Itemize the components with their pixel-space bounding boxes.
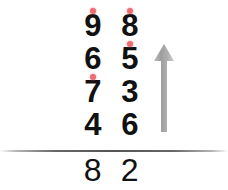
addend-cell-tens: 7 bbox=[78, 74, 107, 107]
sum-digit: 2 bbox=[121, 154, 138, 186]
addend-cell-tens: 4 bbox=[78, 107, 107, 140]
addend-cell-tens: 6 bbox=[78, 41, 107, 74]
addend-digit: 6 bbox=[84, 43, 101, 74]
addend-grid: 9 8 6 5 7 3 bbox=[78, 8, 144, 140]
sum-cell-tens: 8 bbox=[78, 153, 107, 186]
addend-row: 7 3 bbox=[78, 74, 144, 107]
addend-cell-tens: 9 bbox=[78, 8, 107, 41]
sum-cell-ones: 2 bbox=[115, 153, 144, 186]
addend-digit: 4 bbox=[84, 109, 101, 140]
sum-row: 8 2 bbox=[78, 153, 144, 186]
addend-cell-ones: 5 bbox=[115, 41, 144, 74]
addend-row: 4 6 bbox=[78, 107, 144, 140]
addend-cell-ones: 6 bbox=[115, 107, 144, 140]
addend-row: 6 5 bbox=[78, 41, 144, 74]
addend-digit: 9 bbox=[84, 10, 101, 41]
addend-row: 9 8 bbox=[78, 8, 144, 41]
addend-digit: 8 bbox=[121, 10, 138, 41]
carry-dot-icon bbox=[90, 8, 96, 14]
addend-digit: 6 bbox=[121, 109, 138, 140]
carry-dot-icon bbox=[127, 8, 133, 14]
carry-dot-icon bbox=[127, 41, 133, 47]
arrow-up-icon bbox=[152, 42, 176, 134]
addend-digit: 5 bbox=[121, 43, 138, 74]
addend-digit: 3 bbox=[121, 76, 138, 107]
addend-cell-ones: 3 bbox=[115, 74, 144, 107]
sum-separator-rule bbox=[0, 150, 228, 152]
addend-digit: 7 bbox=[84, 76, 101, 107]
addend-cell-ones: 8 bbox=[115, 8, 144, 41]
column-addition-worksheet: 9 8 6 5 7 3 bbox=[0, 0, 228, 190]
sum-row-container: 8 2 bbox=[78, 153, 144, 186]
carry-dot-icon bbox=[90, 74, 96, 80]
sum-digit: 8 bbox=[84, 154, 101, 186]
